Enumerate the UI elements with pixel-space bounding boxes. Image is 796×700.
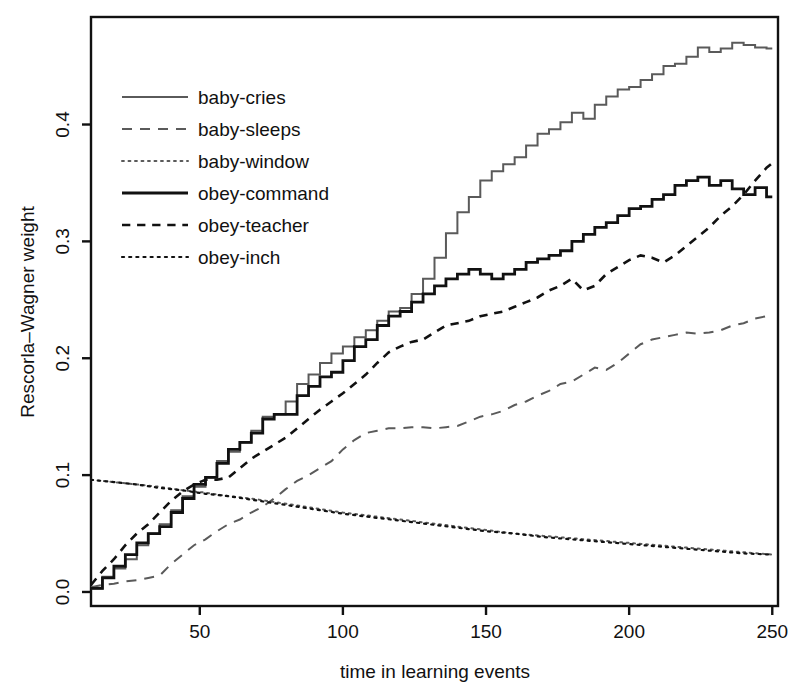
y-tick-label: 0.2: [52, 345, 73, 371]
chart-container: 50100150200250 0.00.10.20.30.4 baby-crie…: [0, 0, 796, 700]
legend-label-baby-sleeps: baby-sleeps: [198, 119, 300, 140]
y-tick-label: 0.3: [52, 228, 73, 254]
line-chart: 50100150200250 0.00.10.20.30.4 baby-crie…: [0, 0, 796, 700]
series-line-obey-command: [91, 177, 772, 588]
x-tick-label: 150: [470, 621, 502, 642]
y-tick-label: 0.0: [52, 579, 73, 605]
x-axis-ticks: 50100150200250: [189, 606, 788, 642]
x-tick-label: 50: [189, 621, 210, 642]
y-tick-label: 0.4: [52, 111, 73, 138]
legend-label-obey-command: obey-command: [198, 183, 329, 204]
x-tick-label: 100: [327, 621, 359, 642]
plot-border: [91, 17, 778, 606]
legend-label-baby-cries: baby-cries: [198, 87, 286, 108]
legend-label-baby-window: baby-window: [198, 151, 309, 172]
y-axis-title: Rescorla–Wagner weight: [17, 205, 38, 417]
legend-label-obey-inch: obey-inch: [198, 247, 280, 268]
x-tick-label: 250: [756, 621, 788, 642]
y-axis-ticks: 0.00.10.20.30.4: [52, 111, 91, 605]
series-line-obey-inch: [91, 480, 772, 555]
series-line-baby-sleeps: [91, 315, 772, 587]
x-tick-label: 200: [613, 621, 645, 642]
data-series-group: [91, 43, 772, 589]
x-axis-title: time in learning events: [340, 661, 530, 682]
series-line-baby-cries: [91, 43, 772, 589]
series-line-obey-teacher: [91, 163, 772, 585]
plot-frame: [91, 17, 778, 606]
legend-label-obey-teacher: obey-teacher: [198, 215, 310, 236]
chart-legend: baby-criesbaby-sleepsbaby-windowobey-com…: [122, 87, 329, 268]
y-tick-label: 0.1: [52, 462, 73, 488]
